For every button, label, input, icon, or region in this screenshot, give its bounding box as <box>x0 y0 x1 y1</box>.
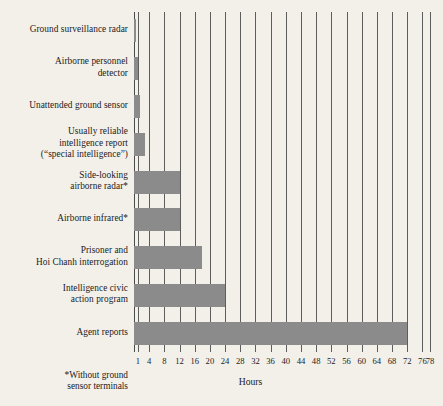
bar-row <box>134 133 430 156</box>
category-label-line: detector <box>0 68 128 79</box>
x-tick-label: 20 <box>206 356 215 367</box>
category-label-line: Airborne infrared* <box>0 213 128 224</box>
category-label: Unattended ground sensor <box>0 100 128 111</box>
category-label-line: Side-looking <box>0 170 128 181</box>
category-label: Ground surveillance radar <box>0 24 128 35</box>
bar-row <box>134 246 430 269</box>
category-label-line: Hoi Chanh interrogation <box>0 257 128 268</box>
footnote-line-1: *Without ground <box>0 370 128 381</box>
x-tick-label: 44 <box>297 356 306 367</box>
bar <box>134 284 225 307</box>
x-tick-label: 8 <box>162 356 166 367</box>
bar <box>134 95 140 118</box>
bar <box>134 246 202 269</box>
category-label-line: Agent reports <box>0 327 128 338</box>
bar <box>134 208 180 231</box>
x-axis-tick-labels: 148121620242832364044485256606468727678 <box>134 356 434 370</box>
bar-row <box>134 171 430 194</box>
bar-row <box>134 19 430 42</box>
category-label-line: action program <box>0 294 128 305</box>
bar <box>134 19 136 42</box>
category-label-line: Airborne personnel <box>0 56 128 67</box>
bar-chart: Ground surveillance radarAirborne person… <box>0 0 443 406</box>
x-tick-label: 52 <box>327 356 336 367</box>
bar-series <box>134 12 430 352</box>
x-tick-label: 24 <box>221 356 230 367</box>
category-label: Airborne personneldetector <box>0 56 128 78</box>
x-tick-label: 48 <box>312 356 321 367</box>
bar-row <box>134 322 430 345</box>
x-tick-label: 56 <box>342 356 351 367</box>
x-tick-label: 1 <box>136 356 140 367</box>
category-label-line: Prisoner and <box>0 245 128 256</box>
footnote-line-2: sensor terminals <box>0 381 128 392</box>
bar <box>134 171 180 194</box>
bar-row <box>134 284 430 307</box>
category-label-line: (“special intelligence”) <box>0 149 128 160</box>
category-label: Agent reports <box>0 327 128 338</box>
x-tick-label: 28 <box>236 356 245 367</box>
bar <box>134 322 407 345</box>
category-label-line: Usually reliable <box>0 126 128 137</box>
bar-row <box>134 95 430 118</box>
chart-footnote: *Without ground sensor terminals <box>0 370 128 393</box>
bar-row <box>134 57 430 80</box>
category-label-line: intelligence report <box>0 138 128 149</box>
category-label: Usually reliableintelligence report(“spe… <box>0 126 128 160</box>
category-label-line: Unattended ground sensor <box>0 100 128 111</box>
category-axis-labels: Ground surveillance radarAirborne person… <box>0 12 128 352</box>
x-tick-label: 72 <box>403 356 412 367</box>
category-label: Side-lookingairborne radar* <box>0 170 128 192</box>
category-label-line: Ground surveillance radar <box>0 24 128 35</box>
category-label: Prisoner andHoi Chanh interrogation <box>0 245 128 267</box>
bar <box>134 133 145 156</box>
x-tick-label: 4 <box>147 356 151 367</box>
x-tick-label: 64 <box>373 356 382 367</box>
category-label: Intelligence civicaction program <box>0 283 128 305</box>
x-tick-label: 16 <box>190 356 199 367</box>
x-tick-label: 12 <box>175 356 184 367</box>
x-tick-label: 32 <box>251 356 260 367</box>
x-tick-label: 40 <box>281 356 290 367</box>
bar <box>134 57 138 80</box>
bar-row <box>134 208 430 231</box>
gridline <box>430 12 431 352</box>
x-tick-label: 36 <box>266 356 275 367</box>
category-label: Airborne infrared* <box>0 213 128 224</box>
x-axis-title-text: Hours <box>239 376 262 387</box>
x-tick-label: 78 <box>426 356 435 367</box>
x-tick-label: 68 <box>388 356 397 367</box>
x-tick-label: 60 <box>357 356 366 367</box>
category-label-line: Intelligence civic <box>0 283 128 294</box>
category-label-line: airborne radar* <box>0 181 128 192</box>
